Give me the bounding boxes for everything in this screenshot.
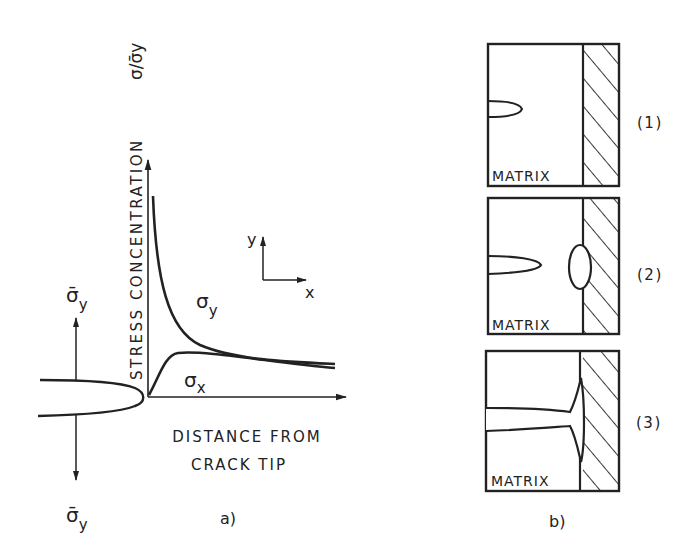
matrix-box-3: MATRIX — [486, 351, 619, 491]
applied-stress-top-label: σ̄y — [66, 283, 88, 314]
coord-x-label: x — [305, 283, 314, 302]
sigma-y-curve — [153, 196, 335, 364]
x-axis-label-line2: CRACK TIP — [191, 456, 287, 474]
matrix-box-1: MATRIX — [488, 44, 619, 186]
sigma-x-curve — [149, 353, 335, 395]
matrix-crack — [488, 256, 541, 274]
sigma-y-label: σy — [196, 289, 218, 320]
figure-svg: y x STRESS CONCENTRATION σ/σ̄y σy σx σ̄y… — [0, 0, 692, 557]
applied-stress-bottom-label: σ̄y — [66, 503, 88, 534]
matrix-label: MATRIX — [491, 473, 550, 489]
matrix-crack — [488, 101, 522, 117]
panel-a: y x STRESS CONCENTRATION σ/σ̄y σy σx σ̄y… — [38, 43, 346, 534]
coord-y-label: y — [247, 230, 256, 249]
panel-a-caption: a) — [220, 509, 236, 528]
matrix-label: MATRIX — [492, 168, 551, 184]
matrix-crack-through — [486, 378, 584, 462]
stage-label-2: (2) — [637, 266, 663, 284]
matrix-label: MATRIX — [492, 317, 551, 333]
y-axis-label: STRESS CONCENTRATION — [128, 138, 146, 380]
sigma-x-label: σx — [184, 368, 206, 397]
y-axis-symbol: σ/σ̄y — [126, 43, 146, 80]
crack-shape — [38, 380, 143, 416]
fiber-hatch — [583, 44, 619, 186]
panel-b: MATRIX (1) MATRIX (2) MATRIX (3) b) — [486, 44, 663, 531]
panel-b-caption: b) — [549, 512, 565, 531]
matrix-box-2: MATRIX — [488, 198, 619, 334]
x-axis-label-line1: DISTANCE FROM — [172, 428, 322, 446]
figure: y x STRESS CONCENTRATION σ/σ̄y σy σx σ̄y… — [0, 0, 692, 557]
stage-label-3: (3) — [636, 414, 662, 432]
fiber-hatch — [583, 351, 619, 491]
stage-label-1: (1) — [637, 114, 663, 132]
interface-debond — [569, 245, 591, 289]
